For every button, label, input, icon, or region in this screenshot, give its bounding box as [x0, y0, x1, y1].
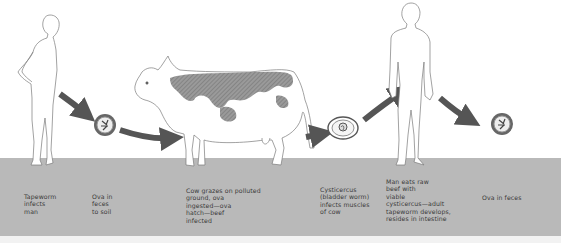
illustration-layer	[0, 0, 561, 243]
human-figure-icon	[18, 15, 59, 165]
life-cycle-diagram: Tapeworm infects man Ova in feces to soi…	[0, 0, 561, 243]
ovum-icon	[94, 114, 116, 136]
human-figure-icon	[389, 3, 433, 165]
caption-man-eats-raw-beef: Man eats raw beef with viable cysticercu…	[386, 178, 451, 222]
caption-cow-grazes: Cow grazes on polluted ground, ova inges…	[186, 187, 261, 224]
caption-tapeworm-infects-man: Tapeworm infects man	[24, 193, 56, 215]
cysticercus-icon	[328, 117, 358, 139]
caption-cysticercus: Cysticercus (bladder worm) infects muscl…	[320, 186, 369, 216]
arrow-icon	[120, 130, 172, 138]
cow-icon	[135, 56, 314, 166]
arrow-icon	[60, 94, 86, 114]
ovum-icon	[491, 113, 513, 135]
caption-ova-to-soil: Ova in feces to soil	[92, 193, 113, 215]
arrow-icon	[306, 134, 322, 137]
caption-ova-in-feces: Ova in feces	[482, 194, 522, 201]
arrow-icon	[440, 98, 470, 120]
